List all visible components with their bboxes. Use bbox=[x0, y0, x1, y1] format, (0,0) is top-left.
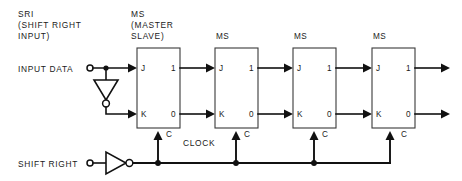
arrow-ff2-k bbox=[206, 110, 215, 119]
arrow-k1-input bbox=[128, 110, 137, 119]
input-data-terminal[interactable] bbox=[87, 65, 93, 71]
pin-j-ff3: J bbox=[297, 64, 301, 73]
sri-label-line3: INPUT) bbox=[18, 31, 50, 41]
pin-out0-ff3: 0 bbox=[327, 110, 332, 119]
pin-k-ff4: K bbox=[376, 110, 382, 119]
pin-j-ff2: J bbox=[219, 64, 223, 73]
pin-out1-ff4: 1 bbox=[406, 64, 411, 73]
pin-out1-ff1: 1 bbox=[171, 64, 176, 73]
input-data-label: INPUT DATA bbox=[18, 64, 73, 74]
pin-out0-ff4: 0 bbox=[406, 110, 411, 119]
data-inverter-bubble-icon bbox=[103, 100, 110, 107]
arrow-j1-input bbox=[128, 64, 137, 73]
ms-caption-line1: MS bbox=[131, 9, 145, 19]
pin-k-ff2: K bbox=[219, 110, 225, 119]
clock-inverter-icon bbox=[106, 152, 126, 174]
pin-c-ff3: C bbox=[322, 130, 328, 139]
pin-c-ff2: C bbox=[244, 130, 250, 139]
arrow-clock-ff3 bbox=[310, 131, 319, 140]
pin-out1-ff3: 1 bbox=[327, 64, 332, 73]
arrow-clock-ff4 bbox=[386, 131, 395, 140]
ms-title-ff4: MS bbox=[373, 32, 386, 41]
ms-caption-line2: (MASTER bbox=[131, 20, 174, 30]
clock-label: CLOCK bbox=[183, 138, 215, 148]
arrow-ff2-j bbox=[206, 64, 215, 73]
arrow-ff3-j bbox=[284, 64, 293, 73]
arrow-ff4-j bbox=[363, 64, 372, 73]
data-inverter-icon bbox=[94, 80, 118, 100]
pin-c-ff1: C bbox=[166, 130, 172, 139]
ms-title-ff2: MS bbox=[216, 32, 229, 41]
arrow-ff4-k bbox=[363, 110, 372, 119]
shift-right-label: SHIFT RIGHT bbox=[18, 159, 78, 169]
shift-register-diagram: SRI (SHIFT RIGHT INPUT) MS (MASTER SLAVE… bbox=[0, 0, 462, 181]
junction-clock-ff3 bbox=[311, 160, 317, 166]
arrow-clock-ff2 bbox=[232, 131, 241, 140]
wire-inverter-to-k1 bbox=[106, 107, 128, 114]
pin-out0-ff2: 0 bbox=[249, 110, 254, 119]
arrow-ff3-k bbox=[284, 110, 293, 119]
pin-c-ff4: C bbox=[401, 130, 407, 139]
pin-k-ff3: K bbox=[297, 110, 303, 119]
pin-j-ff4: J bbox=[376, 64, 380, 73]
pin-out0-ff1: 0 bbox=[171, 110, 176, 119]
junction-clock-ff1 bbox=[155, 160, 161, 166]
circuit-canvas: SRI (SHIFT RIGHT INPUT) MS (MASTER SLAVE… bbox=[0, 0, 462, 181]
clock-inverter-bubble-icon bbox=[126, 160, 133, 167]
pin-k-ff1: K bbox=[141, 110, 147, 119]
ms-caption-line3: SLAVE) bbox=[131, 31, 164, 41]
pin-out1-ff2: 1 bbox=[249, 64, 254, 73]
arrow-output-1 bbox=[441, 64, 450, 73]
junction-clock-ff2 bbox=[233, 160, 239, 166]
sri-label-line2: (SHIFT RIGHT bbox=[18, 20, 82, 30]
arrow-clock-ff1 bbox=[154, 131, 163, 140]
shift-right-terminal[interactable] bbox=[87, 160, 93, 166]
ms-title-ff3: MS bbox=[294, 32, 307, 41]
arrow-output-0 bbox=[441, 110, 450, 119]
pin-j-ff1: J bbox=[141, 64, 145, 73]
sri-label-line1: SRI bbox=[18, 9, 34, 19]
